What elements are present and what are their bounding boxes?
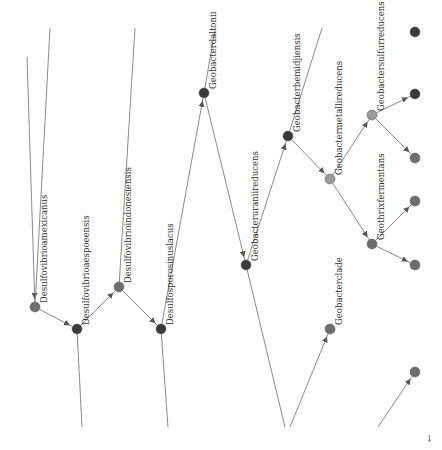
edge	[247, 270, 285, 427]
edge	[291, 140, 326, 176]
node-leaf-e[interactable]	[410, 367, 420, 377]
edge	[378, 376, 412, 427]
node-label-desulfovibrio-aespoeensis: Desulfovibrioaespoeensis	[81, 215, 91, 325]
node-leaf-b[interactable]	[410, 153, 420, 163]
node-leaf-c[interactable]	[410, 196, 420, 206]
node-label-geothrix-fermentans: Geothrixfermentans	[376, 153, 386, 240]
edge	[376, 246, 410, 263]
edge	[205, 98, 245, 260]
edge	[333, 183, 370, 240]
edge	[77, 334, 82, 427]
edge	[290, 334, 328, 427]
node-label-geobacter-dalton: Geobacterdaltonii	[208, 11, 218, 89]
page-corner-mark: ←	[424, 434, 434, 442]
phylogenetic-network-diagram: DesulfovibrioamexicanusDesulfovibrioaesp…	[0, 0, 442, 450]
node-label-geobacter-clade: Geobacterclade	[334, 257, 344, 325]
edge	[39, 309, 72, 326]
node-label-geobacter-bemidjiensis: Geobacterbemidjiensis	[292, 33, 302, 132]
node-label-geobacter-sulfurreducens: Geobactersulfurreducens	[376, 1, 386, 111]
node-leaf-a[interactable]	[410, 89, 420, 99]
node-label-desulfosporosinus-lacus: Desulfosporosinuslacus	[165, 223, 175, 325]
node-label-desulfovibrio-indonesiensis: Desulfovibrioindonesiensis	[123, 167, 133, 283]
node-label-geobacter-uraniireducens: Geobacteruraniireducens	[250, 151, 260, 261]
label-layer: DesulfovibrioamexicanusDesulfovibrioaesp…	[39, 1, 386, 325]
edge	[376, 119, 412, 155]
node-leaf-top[interactable]	[410, 27, 420, 37]
edge	[27, 57, 35, 302]
node-leaf-d[interactable]	[410, 260, 420, 270]
edge	[123, 291, 158, 326]
node-label-desulfovibrio-amexicanus: Desulfovibrioamexicanus	[39, 195, 49, 303]
edge	[161, 334, 168, 427]
node-label-geobacter-metallireducens: Geobactermetallireducens	[334, 61, 344, 175]
